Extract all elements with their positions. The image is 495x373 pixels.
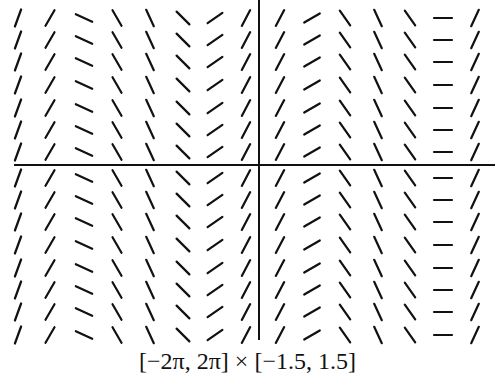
slope-segment: [76, 104, 92, 112]
slope-segment: [15, 327, 21, 344]
slope-segment: [177, 102, 190, 115]
slope-segment: [304, 58, 320, 67]
slope-segment: [177, 146, 190, 159]
slope-segment: [177, 34, 190, 47]
slope-segment: [276, 100, 284, 116]
slope-segment: [405, 101, 415, 116]
slope-segment: [242, 10, 250, 26]
slope-segment: [242, 144, 250, 160]
slope-segment: [76, 286, 92, 294]
slope-segment: [405, 11, 415, 26]
slope-segment: [374, 170, 382, 186]
slope-segment: [15, 192, 21, 209]
slope-segment: [208, 80, 223, 90]
slope-segment: [242, 304, 250, 320]
slope-segment: [76, 308, 92, 316]
slope-segment: [76, 196, 92, 204]
slope-segment: [405, 78, 415, 93]
slope-segment: [208, 285, 223, 295]
slope-segment: [340, 101, 350, 116]
slope-segment: [374, 77, 382, 93]
slope-segment: [113, 77, 122, 93]
slope-segment: [15, 100, 21, 117]
slope-segment: [146, 10, 154, 26]
slope-segment: [15, 304, 21, 321]
slope-segment: [15, 10, 21, 27]
slope-segment: [76, 241, 92, 249]
slope-segment: [46, 170, 55, 186]
slope-segment: [340, 145, 350, 160]
slope-segment: [242, 77, 250, 93]
slope-segment: [471, 282, 479, 298]
slope-segment: [208, 35, 223, 45]
slope-segment: [405, 171, 415, 186]
slope-segment: [304, 264, 320, 273]
slope-segment: [76, 331, 92, 339]
slope-segment: [113, 192, 122, 208]
slope-segment: [405, 215, 415, 230]
slope-segment: [304, 104, 320, 113]
slope-segment: [340, 305, 350, 320]
slope-segment: [304, 196, 320, 205]
slope-segment: [374, 32, 382, 48]
slope-segment: [304, 174, 320, 183]
slope-segment: [276, 282, 284, 298]
slope-segment: [146, 237, 154, 253]
slope-segment: [242, 282, 250, 298]
slope-segment: [471, 170, 479, 186]
slope-segment: [471, 32, 479, 48]
slope-segment: [46, 10, 55, 26]
slope-segment: [340, 238, 350, 253]
slope-segment: [471, 54, 479, 70]
slope-segment: [208, 240, 223, 250]
slope-segment: [208, 13, 223, 23]
slope-segment: [471, 237, 479, 253]
slope-segment: [242, 192, 250, 208]
slope-segment: [146, 100, 154, 116]
slope-segment: [340, 55, 350, 70]
slope-segment: [374, 214, 382, 230]
slope-segment: [76, 126, 92, 134]
slope-segment: [374, 237, 382, 253]
slope-segment: [146, 144, 154, 160]
slope-segment: [146, 192, 154, 208]
slope-segment: [146, 282, 154, 298]
slope-segment: [340, 215, 350, 230]
slope-segment: [374, 54, 382, 70]
slope-segment: [276, 144, 284, 160]
slope-segment: [242, 214, 250, 230]
slope-segment: [304, 331, 320, 340]
slope-segment: [15, 144, 21, 161]
slope-segment: [276, 192, 284, 208]
slope-segment: [15, 32, 21, 49]
slope-segment: [113, 54, 122, 70]
slope-segment: [177, 284, 190, 297]
slope-segment: [208, 307, 223, 317]
slope-segment: [304, 81, 320, 90]
slope-segment: [304, 36, 320, 45]
slope-segment: [374, 10, 382, 26]
slope-segment: [340, 123, 350, 138]
slope-segment: [340, 193, 350, 208]
slope-segment: [146, 122, 154, 138]
slope-segment: [471, 144, 479, 160]
slope-segment: [208, 125, 223, 135]
slope-segment: [242, 32, 250, 48]
slope-segment: [46, 77, 55, 93]
slope-segment: [374, 122, 382, 138]
slope-segment: [374, 260, 382, 276]
slope-segment: [304, 218, 320, 227]
slope-segment: [374, 282, 382, 298]
slope-segment: [46, 260, 55, 276]
slope-segment: [340, 33, 350, 48]
slope-segment: [471, 260, 479, 276]
slope-segment: [146, 54, 154, 70]
slope-segment: [15, 260, 21, 277]
slope-segment: [471, 192, 479, 208]
slope-segment: [15, 214, 21, 231]
slope-segment: [146, 77, 154, 93]
slope-segment: [242, 237, 250, 253]
slope-segment: [146, 260, 154, 276]
slope-segment: [113, 327, 122, 343]
slope-segment: [76, 81, 92, 89]
